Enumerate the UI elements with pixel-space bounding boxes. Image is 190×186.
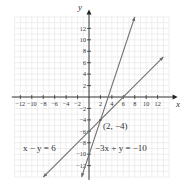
- y-tick-label: 8: [83, 47, 86, 54]
- line1-equation-label: x − y = 6: [23, 143, 56, 153]
- x-tick-label: 6: [122, 100, 125, 107]
- y-tick-label: −4: [79, 116, 86, 123]
- arrowhead-icon: [132, 17, 135, 21]
- y-tick-label: −10: [76, 150, 86, 157]
- intersection-label: (2, −4): [103, 121, 128, 131]
- line2-equation-label: −3x + y = −10: [95, 143, 147, 153]
- arrowhead-icon: [81, 173, 84, 177]
- x-tick-label: −12: [16, 100, 26, 107]
- x-tick-label: 12: [155, 100, 161, 107]
- y-tick-label: 4: [83, 70, 86, 77]
- x-axis-label: x: [175, 99, 180, 109]
- y-tick-label: 10: [80, 36, 86, 43]
- x-tick-label: 2: [99, 100, 102, 107]
- x-tick-label: −10: [27, 100, 37, 107]
- y-tick-label: −6: [79, 128, 86, 135]
- y-axis-label: y: [77, 2, 82, 12]
- y-tick-label: 2: [83, 82, 86, 89]
- y-axis-arrow-icon: [87, 9, 92, 14]
- y-tick-label: −2: [79, 105, 86, 112]
- x-tick-label: −6: [51, 100, 58, 107]
- coordinate-plane-chart: −12−10−8−6−4−224681012−12−10−8−6−4−22468…: [0, 0, 190, 186]
- x-tick-label: 10: [143, 100, 149, 107]
- x-tick-label: −4: [63, 100, 70, 107]
- series-line-1: [43, 57, 163, 177]
- intersection-point: [99, 119, 101, 121]
- x-tick-label: 8: [133, 100, 136, 107]
- y-tick-label: 12: [80, 25, 86, 32]
- x-tick-label: 4: [110, 100, 113, 107]
- y-tick-label: 6: [83, 59, 86, 66]
- x-tick-label: −8: [40, 100, 47, 107]
